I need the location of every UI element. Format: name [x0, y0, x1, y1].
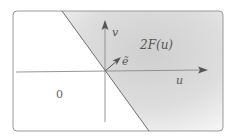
- diagram: v u 2F(u) ẽ 0: [0, 0, 234, 140]
- shaded-region-label: 2F(u): [139, 38, 173, 52]
- unshaded-region-label: 0: [56, 88, 63, 101]
- v-axis-label: v: [112, 26, 119, 39]
- e-vector-label: ẽ: [122, 55, 129, 68]
- u-axis-label: u: [176, 74, 183, 87]
